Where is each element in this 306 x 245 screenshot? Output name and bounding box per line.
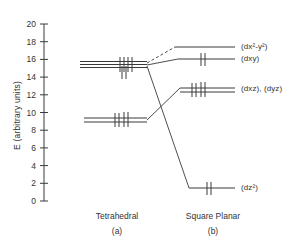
y-tick-label-16: 16 <box>20 54 36 64</box>
square-planar-dxz-dyz-level <box>180 88 235 92</box>
column-sublabel-b: (b) <box>163 226 263 236</box>
y-tick-label-0: 0 <box>20 196 36 206</box>
y-tick-label-4: 4 <box>20 161 36 171</box>
column-sublabel-a: (a) <box>72 226 162 236</box>
y-tick-label-6: 6 <box>20 143 36 153</box>
y-tick-label-12: 12 <box>20 90 36 100</box>
orbital-label-dxz-dyz: (dxz), (dyz) <box>241 84 282 93</box>
y-axis <box>40 24 48 201</box>
y-tick-label-20: 20 <box>20 19 36 29</box>
tetrahedral-upper-level <box>80 62 147 68</box>
y-tick-label-18: 18 <box>20 37 36 47</box>
correlation-lines <box>147 47 189 188</box>
column-label-square-planar: Square Planar <box>163 211 263 221</box>
orbital-splitting-diagram <box>0 0 306 245</box>
orbital-label-dz2: (dz²) <box>241 183 258 192</box>
y-tick-label-10: 10 <box>20 108 36 118</box>
tetrahedral-lower-electrons <box>115 112 128 127</box>
column-label-tetrahedral: Tetrahedral <box>72 211 162 221</box>
y-tick-label-2: 2 <box>20 178 36 188</box>
orbital-label-dx2-y2: (dx²-y²) <box>241 42 268 51</box>
square-planar-dxz-dyz-electrons <box>192 82 205 97</box>
y-tick-label-8: 8 <box>20 125 36 135</box>
orbital-label-dxy: (dxy) <box>241 54 259 63</box>
y-tick-label-14: 14 <box>20 72 36 82</box>
